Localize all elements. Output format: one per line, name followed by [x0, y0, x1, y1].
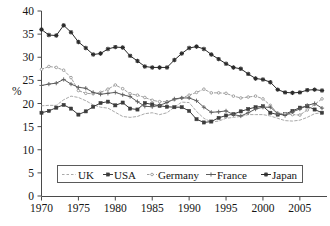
marker-dot — [240, 97, 243, 100]
marker-dot — [77, 89, 80, 92]
marker-plus — [47, 82, 51, 86]
y-tick-label: 30 — [23, 51, 35, 63]
y-tick-label: 25 — [23, 74, 35, 86]
marker-square — [136, 108, 139, 111]
y-tick-labels: 0510152025303540 — [23, 5, 35, 202]
marker-star — [264, 172, 268, 176]
marker-square — [121, 101, 124, 104]
marker-dot — [254, 95, 257, 98]
marker-square — [202, 121, 205, 124]
marker-square — [269, 111, 272, 114]
marker-plus — [84, 86, 88, 90]
marker-star — [120, 45, 124, 49]
marker-star — [209, 52, 213, 56]
marker-star — [276, 87, 280, 91]
marker-square — [180, 106, 183, 109]
y-tick-label: 40 — [23, 5, 35, 17]
series-france — [39, 77, 324, 118]
y-tick-label: 5 — [28, 167, 34, 179]
marker-square — [47, 109, 50, 112]
series-line-japan — [42, 25, 323, 93]
marker-plus — [113, 90, 117, 94]
y-axis-title: % — [12, 85, 22, 97]
marker-square — [239, 110, 242, 113]
chart-canvas: 0510152025303540 % 197019751980198519901… — [0, 0, 330, 226]
marker-square — [173, 106, 176, 109]
marker-star — [84, 46, 88, 50]
marker-star — [290, 91, 294, 95]
marker-star — [61, 23, 65, 27]
marker-square — [195, 118, 198, 121]
marker-star — [239, 67, 243, 71]
marker-square — [55, 106, 58, 109]
legend-label-france: France — [217, 169, 247, 181]
y-tick-label: 35 — [23, 28, 35, 40]
marker-dot — [225, 92, 228, 95]
marker-dot — [55, 66, 58, 69]
marker-star — [231, 65, 235, 69]
marker-dot — [70, 76, 73, 79]
marker-plus — [187, 96, 191, 100]
x-tick-label: 1980 — [104, 202, 127, 214]
marker-square — [165, 105, 168, 108]
marker-plus — [239, 114, 243, 118]
marker-star — [143, 64, 147, 68]
series-markers-france — [39, 77, 324, 118]
series-line-usa — [42, 102, 323, 123]
marker-dot — [114, 84, 117, 87]
marker-square — [247, 107, 250, 110]
marker-plus — [180, 96, 184, 100]
marker-star — [113, 45, 117, 49]
marker-square — [77, 113, 80, 116]
legend-label-uk: UK — [78, 169, 94, 181]
marker-star — [283, 90, 287, 94]
marker-plus — [224, 109, 228, 113]
marker-square — [92, 105, 95, 108]
marker-square — [320, 111, 323, 114]
marker-dot — [158, 100, 161, 103]
marker-dot — [151, 173, 154, 176]
data-series-group — [39, 23, 324, 124]
y-tick-label: 10 — [23, 144, 35, 156]
legend-label-usa: USA — [114, 169, 136, 181]
marker-dot — [321, 98, 324, 101]
marker-star — [54, 33, 58, 37]
x-tick-marks — [42, 197, 300, 201]
marker-star — [202, 47, 206, 51]
marker-square — [313, 108, 316, 111]
marker-square — [217, 116, 220, 119]
legend-label-germany: Germany — [158, 169, 199, 181]
marker-plus — [106, 91, 110, 95]
marker-star — [76, 40, 80, 44]
marker-star — [98, 51, 102, 55]
y-tick-label: 0 — [28, 190, 34, 202]
marker-star — [298, 90, 302, 94]
marker-star — [150, 65, 154, 69]
x-tick-label: 2005 — [288, 202, 311, 214]
marker-plus — [54, 81, 58, 85]
line-chart: 0510152025303540 % 197019751980198519901… — [0, 0, 330, 226]
marker-star — [128, 54, 132, 58]
marker-square — [69, 107, 72, 110]
marker-star — [91, 52, 95, 56]
series-japan — [39, 23, 324, 95]
marker-star — [165, 65, 169, 69]
marker-dot — [247, 96, 250, 99]
series-markers-japan — [39, 23, 324, 95]
series-usa — [40, 100, 324, 124]
marker-star — [253, 76, 257, 80]
marker-dot — [121, 87, 124, 90]
series-markers-usa — [40, 100, 324, 124]
marker-dot — [195, 91, 198, 94]
x-tick-label: 1990 — [178, 202, 201, 214]
y-tick-label: 15 — [23, 121, 35, 133]
marker-star — [106, 47, 110, 51]
marker-plus — [217, 110, 221, 114]
marker-star — [187, 46, 191, 50]
marker-star — [39, 27, 43, 31]
marker-plus — [39, 83, 43, 87]
marker-dot — [107, 88, 110, 91]
marker-star — [216, 57, 220, 61]
y-tick-label: 20 — [23, 98, 35, 110]
x-tick-label: 1975 — [67, 202, 90, 214]
